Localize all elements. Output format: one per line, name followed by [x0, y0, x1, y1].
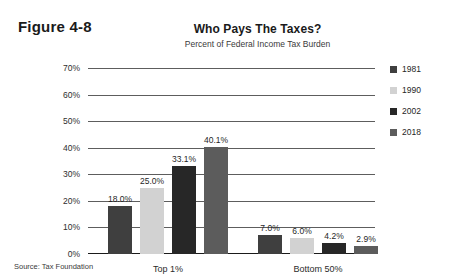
bar-value-label: 2.9% [356, 234, 375, 244]
bar-rect: 25.0% [140, 188, 164, 254]
bar-1990-top1[interactable]: 25.0% [140, 68, 164, 254]
y-axis-tick-label: 40% [63, 143, 80, 153]
bar-2002-top1[interactable]: 33.1% [172, 68, 196, 254]
legend-swatch-icon [390, 87, 397, 94]
legend-item-2002[interactable]: 2002 [390, 106, 421, 116]
bar-rect: 2.9% [354, 246, 378, 254]
bar-value-label: 7.0% [260, 223, 279, 233]
bar-value-label: 33.1% [172, 154, 196, 164]
bar-rect: 18.0% [108, 206, 132, 254]
bar-2018-bottom50[interactable]: 2.9% [354, 68, 378, 254]
legend-item-label: 1981 [402, 64, 421, 74]
chart-plot-area: 70%60%50%40%30%20%10%0%18.0%25.0%33.1%40… [88, 68, 375, 254]
bar-group: 18.0%25.0%33.1%40.1%Top 1% [106, 68, 230, 254]
bar-rect: 4.2% [322, 243, 346, 254]
figure-label: Figure 4-8 [18, 18, 92, 35]
bar-1981-top1[interactable]: 18.0% [108, 68, 132, 254]
bar-1990-bottom50[interactable]: 6.0% [290, 68, 314, 254]
y-axis-tick-label: 0% [68, 249, 80, 259]
bar-rect: 7.0% [258, 235, 282, 254]
legend-swatch-icon [390, 66, 397, 73]
bar-1981-bottom50[interactable]: 7.0% [258, 68, 282, 254]
y-axis-tick-label: 10% [63, 222, 80, 232]
bar-group: 7.0%6.0%4.2%2.9%Bottom 50% [256, 68, 380, 254]
x-axis-category-label: Bottom 50% [256, 264, 380, 274]
y-axis-tick-label: 30% [63, 169, 80, 179]
legend-item-label: 1990 [402, 85, 421, 95]
bar-value-label: 40.1% [204, 135, 228, 145]
legend-item-label: 2002 [402, 106, 421, 116]
y-axis-tick-label: 50% [63, 116, 80, 126]
bar-2018-top1[interactable]: 40.1% [204, 68, 228, 254]
x-axis-category-label: Top 1% [106, 264, 230, 274]
legend-item-1981[interactable]: 1981 [390, 64, 421, 74]
bar-rect: 40.1% [204, 147, 228, 254]
bar-value-label: 6.0% [292, 226, 311, 236]
bar-value-label: 4.2% [324, 231, 343, 241]
chart-subtitle: Percent of Federal Income Tax Burden [150, 39, 365, 49]
legend-swatch-icon [390, 108, 397, 115]
bar-rect: 33.1% [172, 166, 196, 254]
source-note: Source: Tax Foundation [14, 262, 93, 271]
legend-item-label: 2018 [402, 127, 421, 137]
bar-value-label: 25.0% [140, 176, 164, 186]
legend-swatch-icon [390, 129, 397, 136]
bar-2002-bottom50[interactable]: 4.2% [322, 68, 346, 254]
bar-value-label: 18.0% [108, 194, 132, 204]
chart-title: Who Pays The Taxes? [150, 22, 365, 36]
bar-rect: 6.0% [290, 238, 314, 254]
legend-item-1990[interactable]: 1990 [390, 85, 421, 95]
y-axis-tick-label: 70% [63, 63, 80, 73]
legend-item-2018[interactable]: 2018 [390, 127, 421, 137]
chart-legend: 1981199020022018 [390, 64, 421, 148]
title-block: Who Pays The Taxes? Percent of Federal I… [150, 22, 365, 49]
y-axis-tick-label: 20% [63, 196, 80, 206]
y-axis-tick-label: 60% [63, 90, 80, 100]
